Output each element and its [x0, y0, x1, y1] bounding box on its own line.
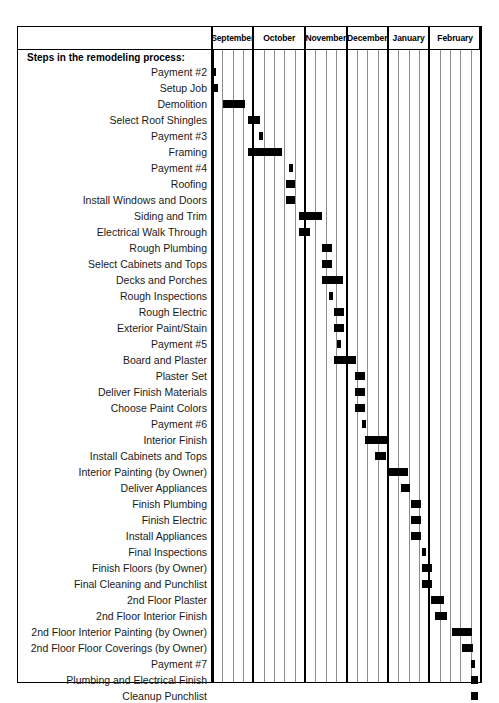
task-row[interactable]: Rough Inspections [18, 288, 481, 304]
gantt-bar[interactable] [355, 388, 365, 396]
task-row[interactable]: 2nd Floor Interior Painting (by Owner) [18, 624, 481, 640]
gantt-bar[interactable] [322, 276, 344, 284]
gantt-bar[interactable] [471, 676, 478, 684]
task-row[interactable]: Electrical Walk Through [18, 224, 481, 240]
task-row[interactable]: Install Windows and Doors [18, 192, 481, 208]
gantt-bar[interactable] [289, 164, 293, 172]
gantt-bar[interactable] [286, 180, 295, 188]
task-row[interactable]: Payment #4 [18, 160, 481, 176]
gantt-bar[interactable] [411, 516, 421, 524]
task-label: Payment #2 [18, 64, 212, 80]
month-separator-head [304, 27, 306, 49]
task-label: Deliver Appliances [18, 480, 212, 496]
task-row[interactable]: Select Roof Shingles [18, 112, 481, 128]
task-label: Payment #4 [18, 160, 212, 176]
task-row[interactable]: Rough Electric [18, 304, 481, 320]
task-row[interactable]: Install Cabinets and Tops [18, 448, 481, 464]
gantt-bar[interactable] [365, 436, 387, 444]
task-row[interactable]: Payment #5 [18, 336, 481, 352]
task-row[interactable]: Interior Painting (by Owner) [18, 464, 481, 480]
gantt-bar[interactable] [462, 644, 472, 652]
task-row[interactable]: Plumbing and Electrical Finish [18, 672, 481, 688]
gantt-bar[interactable] [431, 596, 443, 604]
task-label: Choose Paint Colors [18, 400, 212, 416]
gantt-bar[interactable] [322, 260, 332, 268]
gantt-bar[interactable] [471, 692, 478, 700]
gantt-bar[interactable] [299, 228, 310, 236]
task-row[interactable]: Select Cabinets and Tops [18, 256, 481, 272]
gantt-bar[interactable] [337, 340, 341, 348]
task-row[interactable]: Payment #7 [18, 656, 481, 672]
task-row[interactable]: Finish Floors (by Owner) [18, 560, 481, 576]
task-label: Cleanup Punchlist [18, 688, 212, 703]
month-header-february: February [429, 27, 481, 49]
gantt-bar[interactable] [223, 100, 245, 108]
task-row[interactable]: Payment #2 [18, 64, 481, 80]
task-label: Payment #7 [18, 656, 212, 672]
task-row[interactable]: Choose Paint Colors [18, 400, 481, 416]
gantt-bar[interactable] [411, 532, 421, 540]
task-label: Install Appliances [18, 528, 212, 544]
task-row[interactable]: Final Cleaning and Punchlist [18, 576, 481, 592]
gantt-bar[interactable] [329, 292, 333, 300]
task-row[interactable]: Cleanup Punchlist [18, 688, 481, 703]
task-label: Interior Finish [18, 432, 212, 448]
task-row[interactable]: Board and Plaster [18, 352, 481, 368]
gantt-bar[interactable] [212, 68, 216, 76]
gantt-bar[interactable] [212, 84, 218, 92]
gantt-bar[interactable] [248, 148, 282, 156]
task-row[interactable]: Deliver Finish Materials [18, 384, 481, 400]
gantt-bar[interactable] [471, 660, 475, 668]
task-row[interactable]: Payment #3 [18, 128, 481, 144]
gantt-bar[interactable] [355, 372, 365, 380]
gantt-bar[interactable] [435, 612, 446, 620]
task-label: 2nd Floor Interior Finish [18, 608, 212, 624]
task-label: Finish Floors (by Owner) [18, 560, 212, 576]
task-label: Install Windows and Doors [18, 192, 212, 208]
task-row[interactable]: Rough Plumbing [18, 240, 481, 256]
task-row[interactable]: Finish Electric [18, 512, 481, 528]
gantt-bar[interactable] [422, 548, 426, 556]
task-row[interactable]: Final Inspections [18, 544, 481, 560]
task-row[interactable]: Setup Job [18, 80, 481, 96]
gantt-bar[interactable] [322, 244, 332, 252]
task-row[interactable]: Demolition [18, 96, 481, 112]
task-row[interactable]: Exterior Paint/Stain [18, 320, 481, 336]
gantt-bar[interactable] [334, 324, 344, 332]
gantt-bar[interactable] [362, 420, 366, 428]
task-label: Rough Plumbing [18, 240, 212, 256]
task-label: Plaster Set [18, 368, 212, 384]
task-row[interactable]: Framing [18, 144, 481, 160]
task-row[interactable]: Interior Finish [18, 432, 481, 448]
task-row[interactable]: Siding and Trim [18, 208, 481, 224]
task-row[interactable]: Payment #6 [18, 416, 481, 432]
gantt-bar[interactable] [334, 356, 356, 364]
gantt-bar[interactable] [411, 500, 421, 508]
gantt-bar[interactable] [452, 628, 472, 636]
task-row[interactable]: Roofing [18, 176, 481, 192]
gantt-bar[interactable] [401, 484, 409, 492]
task-row[interactable]: 2nd Floor Plaster [18, 592, 481, 608]
task-label: Decks and Porches [18, 272, 212, 288]
gantt-bar[interactable] [248, 116, 259, 124]
gantt-bar[interactable] [388, 468, 408, 476]
gantt-bar[interactable] [299, 212, 322, 220]
task-row[interactable]: Plaster Set [18, 368, 481, 384]
gantt-bar[interactable] [286, 196, 295, 204]
task-label: Siding and Trim [18, 208, 212, 224]
gantt-bar[interactable] [259, 132, 263, 140]
gantt-bar[interactable] [334, 308, 344, 316]
task-label: Payment #3 [18, 128, 212, 144]
task-row[interactable]: 2nd Floor Floor Coverings (by Owner) [18, 640, 481, 656]
gantt-bar[interactable] [355, 404, 365, 412]
gantt-bar[interactable] [375, 452, 385, 460]
task-label: Final Cleaning and Punchlist [18, 576, 212, 592]
task-label: Electrical Walk Through [18, 224, 212, 240]
task-row[interactable]: Decks and Porches [18, 272, 481, 288]
task-row[interactable]: 2nd Floor Interior Finish [18, 608, 481, 624]
task-row[interactable]: Finish Plumbing [18, 496, 481, 512]
task-row[interactable]: Install Appliances [18, 528, 481, 544]
gantt-bar[interactable] [422, 580, 432, 588]
task-row[interactable]: Deliver Appliances [18, 480, 481, 496]
gantt-bar[interactable] [422, 564, 432, 572]
